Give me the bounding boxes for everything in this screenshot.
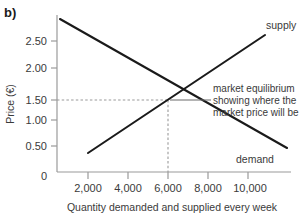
- y-tick-label: 2.00: [26, 62, 47, 74]
- x-tick-label: 10,000: [233, 182, 267, 194]
- x-axis-title: Quantity demanded and supplied every wee…: [67, 201, 278, 213]
- panel-label: b): [4, 5, 16, 20]
- supply-demand-chart: b) 2.50 2.00 1.50 1.00 0.50 0 Price (€) …: [0, 0, 304, 220]
- supply-curve: [88, 35, 265, 153]
- y-axis-title: Price (€): [4, 84, 16, 124]
- chart-figure: b) 2.50 2.00 1.50 1.00 0.50 0 Price (€) …: [0, 0, 304, 220]
- y-tick-label: 1.50: [26, 94, 47, 106]
- supply-curve-label: supply: [266, 19, 297, 31]
- x-tick-label: 8,000: [194, 182, 222, 194]
- demand-curve-label: demand: [236, 153, 274, 165]
- annotation-line: showing where the: [213, 95, 297, 106]
- annotation-line: market price will be: [213, 107, 299, 118]
- y-tick-label: 2.50: [26, 35, 47, 47]
- annotation-line: market equilibrium: [213, 83, 295, 94]
- origin-label: 0: [41, 170, 47, 182]
- x-tick-label: 6,000: [154, 182, 182, 194]
- x-tick-label: 2,000: [74, 182, 102, 194]
- x-tick-label: 4,000: [114, 182, 142, 194]
- y-tick-label: 1.00: [26, 114, 47, 126]
- y-tick-label: 0.50: [26, 140, 47, 152]
